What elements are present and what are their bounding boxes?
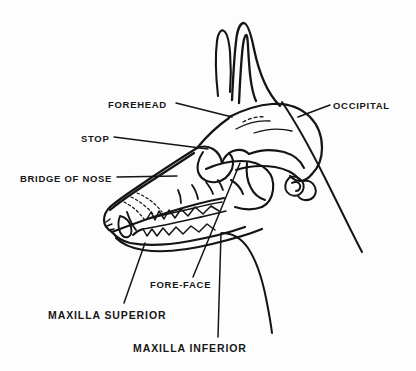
- teeth-lower-row: [143, 211, 226, 236]
- leader-bridge-of-nose: [117, 176, 177, 177]
- diagram-page: FOREHEAD OCCIPITAL STOP BRIDGE OF NOSE F…: [0, 0, 416, 371]
- leader-maxilla-inferior: [218, 233, 221, 337]
- leader-stop: [114, 137, 208, 149]
- label-bridge-of-nose: BRIDGE OF NOSE: [20, 174, 112, 184]
- teeth-upper-row: [147, 202, 222, 220]
- label-occipital: OCCIPITAL: [333, 101, 390, 111]
- leader-maxilla-superior: [124, 243, 145, 303]
- occipital-condyle: [298, 181, 316, 200]
- forehead-contour: [197, 118, 229, 148]
- cranial-detail: [236, 117, 292, 133]
- leader-fore-face: [193, 163, 240, 277]
- label-maxilla-inferior: MAXILLA INFERIOR: [133, 343, 247, 354]
- neck-outline: [222, 102, 362, 333]
- cranium-outline: [229, 104, 322, 181]
- ear-front-icon: [216, 30, 231, 96]
- label-maxilla-superior: MAXILLA SUPERIOR: [48, 310, 166, 321]
- label-fore-face: FORE-FACE: [150, 280, 211, 290]
- leader-forehead: [176, 103, 232, 117]
- ear-rear-icon: [232, 23, 280, 106]
- teeth-canine: [119, 212, 144, 237]
- label-stop: STOP: [81, 134, 110, 144]
- label-forehead: FOREHEAD: [108, 100, 167, 110]
- orbit-eye-socket: [198, 152, 233, 182]
